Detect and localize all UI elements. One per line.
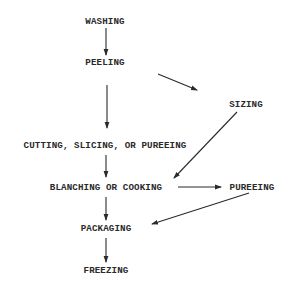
node-peeling: PEELING (85, 57, 125, 68)
node-washing: WASHING (85, 16, 125, 27)
node-freezing: FREEZING (84, 265, 129, 276)
node-packaging: PACKAGING (81, 223, 132, 234)
node-pureeing: PUREEING (230, 182, 275, 193)
arrow-peeling-to-sizing (158, 74, 197, 90)
nodes: WASHING PEELING SIZING CUTTING, SLICING,… (24, 16, 275, 276)
process-flow-diagram: WASHING PEELING SIZING CUTTING, SLICING,… (0, 0, 291, 289)
node-cutting-slicing-pureeing: CUTTING, SLICING, OR PUREEING (24, 140, 187, 151)
node-blanching-or-cooking: BLANCHING OR COOKING (50, 182, 163, 193)
arrow-pureeing-to-packaging (152, 193, 249, 224)
node-sizing: SIZING (229, 99, 263, 110)
